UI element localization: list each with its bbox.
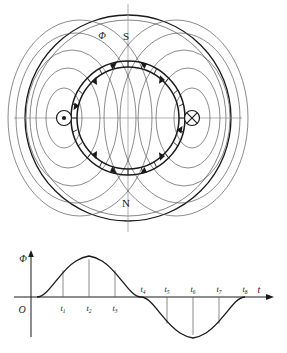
current-into-page-symbol	[185, 111, 200, 126]
x-axis-label: t	[258, 284, 261, 295]
tick-label-t3: t3	[112, 303, 117, 314]
figure-root: S N Φ Φ t O	[0, 0, 287, 353]
rotor-slot-tick	[174, 90, 178, 94]
chart-tick-labels: t1 t2 t3 t4 t5 t6 t7 t8	[60, 284, 247, 314]
y-axis-arrowhead	[28, 250, 34, 257]
pole-label-south: S	[123, 30, 129, 42]
tick-label-t7: t7	[216, 284, 221, 295]
rotor-slot-tick	[88, 153, 91, 158]
tick-label-t1: t1	[60, 303, 65, 314]
rotor-slot-tick	[100, 69, 103, 74]
arrowhead	[92, 77, 98, 86]
rotor-slot-tick	[154, 162, 157, 167]
arrowhead	[92, 151, 98, 160]
current-out-of-page-symbol	[57, 111, 72, 126]
rotor-slot-tick	[78, 142, 82, 146]
rotor-slot-tick	[88, 78, 91, 83]
rotor-slot-tick	[174, 142, 178, 146]
tick-label-t5: t5	[164, 284, 169, 295]
rotor-slot-tick	[165, 153, 168, 158]
rotor-slot-tick	[154, 69, 157, 74]
flux-waveform-chart: Φ t O t1 t2 t3 t4 t5 t6 t7 t8	[14, 250, 274, 338]
pole-label-north: N	[122, 197, 130, 209]
rotor-slot-tick	[78, 90, 82, 94]
x-axis-arrowhead	[266, 294, 274, 300]
rotor-slot-tick	[100, 162, 103, 167]
y-axis-label: Φ	[19, 253, 27, 264]
tick-label-t2: t2	[86, 303, 91, 314]
tick-label-t4: t4	[140, 284, 145, 295]
current-dot-icon	[62, 116, 66, 120]
machine-diagram: S N Φ	[8, 4, 248, 232]
tick-label-t6: t6	[190, 284, 195, 295]
origin-label: O	[18, 304, 25, 315]
rotor-slot-tick	[165, 78, 168, 83]
tick-label-t8: t8	[242, 284, 247, 295]
physics-figure: S N Φ Φ t O	[0, 0, 287, 353]
flux-symbol-label: Φ	[98, 30, 106, 41]
